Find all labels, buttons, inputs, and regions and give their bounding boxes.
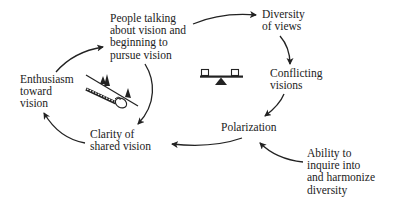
arrow-enthusiasm-to-people	[56, 47, 103, 72]
arrow-people-to-clarity	[138, 64, 152, 124]
node-text: about vision and	[110, 24, 186, 36]
snowball-slope-icon	[86, 74, 138, 110]
node-enthusiasm-toward-vision: Enthusiasm toward vision	[20, 73, 74, 110]
node-clarity-of-shared-vision: Clarity of shared vision	[90, 128, 151, 152]
node-text: Enthusiasm	[20, 73, 74, 85]
node-text: pursue vision	[110, 49, 186, 61]
node-text: toward	[20, 85, 74, 97]
node-text: and harmonize	[307, 171, 375, 183]
node-text: vision	[20, 97, 74, 109]
node-ability-to-inquire: Ability to inquire into and harmonize di…	[307, 147, 375, 196]
node-conflicting-visions: Conflicting visions	[270, 67, 322, 91]
node-polarization: Polarization	[221, 121, 277, 133]
node-text: Conflicting	[270, 67, 322, 79]
node-text: inquire into	[307, 159, 375, 171]
balance-scale-icon	[200, 70, 243, 86]
arrow-clarity-to-enthusiasm	[44, 113, 85, 143]
node-text: Diversity	[262, 8, 305, 20]
node-text: beginning to	[110, 36, 186, 48]
node-text: Polarization	[221, 121, 277, 133]
node-text: People talking	[110, 12, 186, 24]
node-diversity-of-views: Diversity of views	[262, 8, 305, 32]
node-text: visions	[270, 79, 322, 91]
arrow-diversity-to-conflicting	[280, 36, 290, 64]
arrow-ability-to-polarization	[260, 143, 303, 162]
node-text: shared vision	[90, 140, 151, 152]
arrow-conflicting-to-polarization	[265, 94, 284, 116]
node-people-talking: People talking about vision and beginnin…	[110, 12, 186, 61]
node-text: Clarity of	[90, 128, 151, 140]
node-text: Ability to	[307, 147, 375, 159]
causal-loop-diagram: People talking about vision and beginnin…	[0, 0, 399, 206]
node-text: of views	[262, 20, 305, 32]
arrow-people-to-diversity	[193, 14, 256, 24]
node-text: diversity	[307, 184, 375, 196]
arrow-polarization-to-clarity	[172, 138, 242, 145]
